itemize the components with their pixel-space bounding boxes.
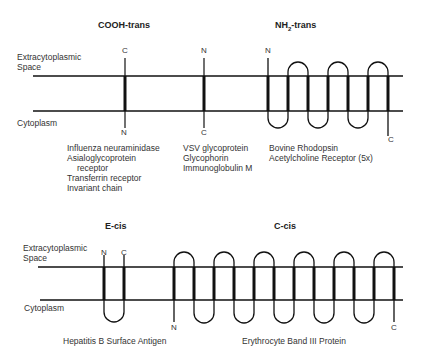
n-terminus-label: N bbox=[201, 46, 207, 55]
extracytoplasmic-space-label-bottom: ExtracytoplasmicSpace bbox=[23, 243, 87, 263]
e-cis-title: E-cis bbox=[105, 221, 127, 231]
cytoplasm-label-bottom: Cytoplasm bbox=[24, 303, 64, 313]
e-cis-example: Hepatitis B Surface Antigen bbox=[63, 336, 166, 346]
c-terminus-label: C bbox=[391, 323, 397, 332]
cooh-trans-title: COOH-trans bbox=[98, 20, 150, 30]
n-terminus-label: N bbox=[121, 128, 127, 137]
c-cis-example: Erythrocyte Band III Protein bbox=[242, 336, 346, 346]
c-terminus-label: C bbox=[201, 128, 207, 137]
cooh-trans-examples: Influenza neuraminidase Asialoglycoprote… bbox=[67, 143, 160, 193]
c-terminus-label: C bbox=[388, 135, 394, 144]
n-terminus-label: N bbox=[101, 248, 107, 257]
n-terminus-label: N bbox=[171, 323, 177, 332]
nh2-trans-examples: Bovine Rhodopsin Acetylcholine Receptor … bbox=[269, 143, 373, 163]
n-trans-examples: VSV glycoprotein Glycophorin Immunoglobu… bbox=[183, 143, 252, 173]
nh2-trans-title: NH2-trans bbox=[275, 20, 316, 32]
extracytoplasmic-space-label-top: ExtracytoplasmicSpace bbox=[17, 52, 81, 72]
c-terminus-label: C bbox=[122, 46, 128, 55]
cytoplasm-label-top: Cytoplasm bbox=[17, 118, 57, 128]
c-terminus-label: C bbox=[121, 248, 127, 257]
c-cis-title: C-cis bbox=[274, 221, 296, 231]
n-terminus-label: N bbox=[265, 46, 271, 55]
